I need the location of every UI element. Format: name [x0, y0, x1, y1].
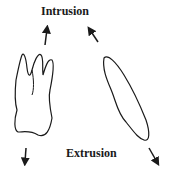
incisor-tooth-outline	[104, 57, 149, 140]
intrusion-arrow-left	[45, 29, 47, 45]
extrusion-arrow-left	[25, 148, 26, 162]
tooth-movement-diagram	[0, 0, 169, 172]
intrusion-arrow-right	[90, 30, 98, 42]
molar-tooth-outline	[15, 54, 53, 135]
extrusion-arrow-right	[149, 148, 157, 162]
molar-root-line	[32, 70, 34, 95]
